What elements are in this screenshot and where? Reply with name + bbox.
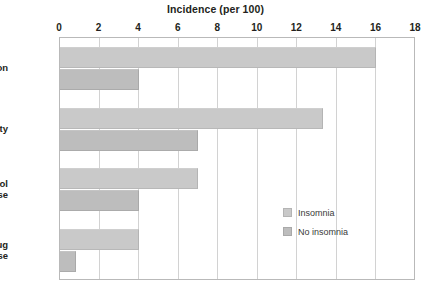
x-tick-label: 18 (409, 22, 420, 33)
x-tick-label: 16 (370, 22, 381, 33)
bar-insomnia-anxiety (60, 108, 323, 129)
chart-title: Incidence (per 100) (0, 3, 431, 15)
category-label-line: abuse (0, 250, 8, 261)
legend-label: No insomnia (298, 227, 348, 237)
category-label-line: Depression (0, 62, 8, 73)
bar-no-insomnia-drug-abuse (60, 251, 76, 272)
bar-no-insomnia-anxiety (60, 130, 198, 151)
category-label-depression: Depression (0, 62, 8, 73)
legend-swatch-icon (283, 208, 292, 217)
x-tick-label: 4 (135, 22, 141, 33)
gridline (217, 38, 218, 279)
legend-label: Insomnia (298, 208, 335, 218)
x-tick-label: 8 (214, 22, 220, 33)
bar-no-insomnia-depression (60, 69, 139, 90)
legend-item-insomnia: Insomnia (283, 205, 348, 220)
legend-item-noinsomnia: No insomnia (283, 224, 348, 239)
gridline (375, 38, 376, 279)
category-label-line: Drug (0, 239, 8, 250)
gridline (178, 38, 179, 279)
gridline (257, 38, 258, 279)
category-label-alcohol-abuse: Alcoholabuse (0, 178, 8, 200)
x-tick-label: 2 (96, 22, 102, 33)
category-label-anxiety: Anxiety (0, 123, 8, 134)
bar-insomnia-alcohol-abuse (60, 168, 198, 189)
category-label-drug-abuse: Drugabuse (0, 239, 8, 261)
category-label-line: Anxiety (0, 123, 8, 134)
category-label-line: Alcohol (0, 178, 8, 189)
x-tick-label: 0 (56, 22, 62, 33)
x-tick-label: 14 (330, 22, 341, 33)
chart-legend: InsomniaNo insomnia (283, 205, 348, 243)
bar-insomnia-drug-abuse (60, 229, 139, 250)
legend-swatch-icon (283, 227, 292, 236)
x-axis-tick-labels: 024681012141618 (0, 22, 431, 36)
bar-no-insomnia-alcohol-abuse (60, 190, 139, 211)
bar-chart: Incidence (per 100) 024681012141618 Inso… (0, 0, 431, 293)
bar-insomnia-depression (60, 47, 376, 68)
category-label-line: abuse (0, 189, 8, 200)
x-tick-label: 10 (251, 22, 262, 33)
plot-area (59, 37, 415, 280)
x-tick-label: 6 (175, 22, 181, 33)
x-tick-label: 12 (291, 22, 302, 33)
